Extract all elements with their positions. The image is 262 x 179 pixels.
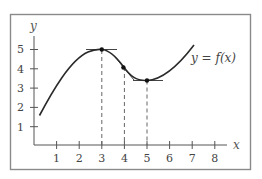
y-tick-label: 2 xyxy=(17,101,24,114)
y-tick-label: 4 xyxy=(17,63,24,76)
x-tick-label: 6 xyxy=(166,152,173,165)
point-max xyxy=(100,47,104,51)
x-tick-label: 5 xyxy=(144,152,151,165)
y-tick-label: 1 xyxy=(17,121,24,134)
x-axis-label: x xyxy=(233,138,240,152)
x-tick-label: 2 xyxy=(76,152,83,165)
x-tick-label: 1 xyxy=(53,152,60,165)
y-tick-label: 3 xyxy=(17,82,24,95)
point-min xyxy=(145,78,149,82)
point-inflection xyxy=(121,65,125,69)
y-axis-label: y xyxy=(29,19,37,33)
curve-label: y = f(x) xyxy=(190,51,236,65)
y-tick-labels: 1 2 3 4 5 xyxy=(17,43,24,133)
chart: x y 1 2 3 4 5 6 7 8 1 2 3 4 5 xyxy=(0,0,262,179)
x-tick-labels: 1 2 3 4 5 6 7 8 xyxy=(53,152,218,165)
curve-f xyxy=(40,45,195,116)
x-tick-label: 3 xyxy=(98,152,105,165)
x-tick-label: 4 xyxy=(121,152,128,165)
x-tick-label: 8 xyxy=(211,152,218,165)
y-tick-label: 5 xyxy=(17,43,24,56)
x-tick-label: 7 xyxy=(189,152,196,165)
